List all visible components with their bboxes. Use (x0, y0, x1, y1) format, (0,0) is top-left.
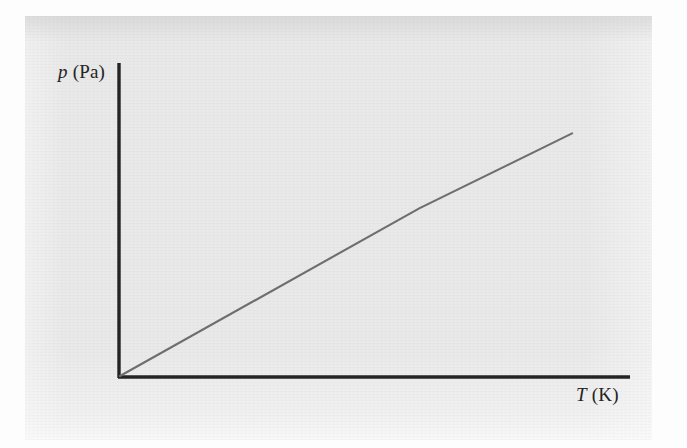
x-axis-label: T (K) (576, 385, 619, 404)
figure-root: p (Pa) T (K) (0, 0, 687, 448)
y-axis-label: p (Pa) (58, 62, 105, 81)
y-axis-symbol: p (58, 61, 68, 82)
x-axis-symbol: T (576, 384, 587, 405)
y-axis-unit: (Pa) (68, 61, 105, 82)
x-axis-unit: (K) (587, 384, 619, 405)
data-line-p-vs-t (120, 133, 572, 376)
